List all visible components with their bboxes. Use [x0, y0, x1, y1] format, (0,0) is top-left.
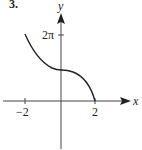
- x-tick-label-2: 2: [92, 105, 98, 119]
- x-axis-label: x: [132, 94, 139, 108]
- y-axis-label: y: [57, 0, 64, 13]
- y-tick-label-2pi: 2π: [42, 28, 54, 42]
- function-curve: [25, 34, 95, 101]
- function-graph: y x 2π −2 2: [0, 0, 142, 150]
- x-tick-label-neg2: −2: [16, 105, 29, 119]
